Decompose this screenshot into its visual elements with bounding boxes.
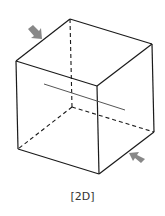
figure-caption: [2D] xyxy=(0,190,165,203)
cube-diagram xyxy=(0,0,165,216)
internal-line xyxy=(44,84,125,110)
arrow-icon xyxy=(28,25,42,39)
visible-edges xyxy=(16,19,154,174)
arrow-icon xyxy=(129,152,145,163)
